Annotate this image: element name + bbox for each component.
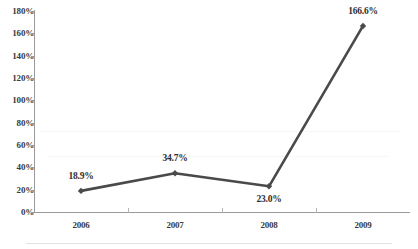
- plot-area: [0, 0, 418, 249]
- data-point-label-2006: 18.9%: [68, 172, 93, 182]
- data-point-marker-2006: [78, 188, 84, 194]
- data-point-markers: [78, 23, 366, 194]
- data-point-label-2008: 23.0%: [256, 196, 281, 206]
- data-series-line: [81, 26, 363, 191]
- data-point-label-2009: 166.6%: [348, 7, 378, 17]
- bottom-divider: [26, 243, 392, 244]
- data-point-label-2007: 34.7%: [162, 155, 187, 165]
- line-chart: 0%20%40%60%80%100%120%140%160%180% 20062…: [0, 0, 418, 249]
- data-point-marker-2007: [172, 170, 178, 176]
